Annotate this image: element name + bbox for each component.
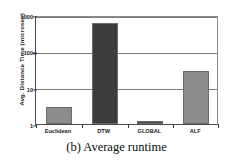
gridline-100 [36,53,217,54]
figure-average-runtime: Avg. Distance Time (microsec) 1101001000… [0,0,233,163]
bar-dtw [92,23,118,124]
x-tick-mark-2 [128,124,129,128]
x-tick-mark-3 [173,124,174,128]
bar-alf [183,71,209,124]
x-axis-label-dtw: DTW [97,128,110,134]
plot-area: 1101001000 [35,16,218,125]
bar-euclidean [46,107,72,124]
gridline-1000 [36,17,217,18]
y-tick-label-1000: 1000 [21,14,33,20]
figure-caption: (b) Average runtime [0,140,233,155]
x-axis-label-euclidean: Euclidean [45,128,71,134]
y-tick-mark-10 [33,89,37,90]
x-axis-label-alf: ALF [190,128,201,134]
x-tick-mark-0 [36,124,37,128]
y-tick-mark-100 [33,53,37,54]
y-tick-label-100: 100 [24,50,33,56]
y-tick-mark-1000 [33,16,37,17]
x-axis-label-global: GLOBAL [138,128,162,134]
bar-global [137,121,163,124]
x-tick-mark-end [218,124,219,128]
x-tick-mark-1 [82,124,83,128]
